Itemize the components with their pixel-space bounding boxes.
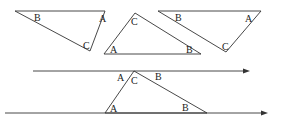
top-triangles: BACCABBAC (15, 11, 261, 55)
triangle-outline (15, 11, 105, 51)
top-triangle-3: BAC (158, 11, 261, 52)
angle-label-a: A (110, 44, 118, 55)
angle-label-b: B (186, 44, 193, 55)
angle-label-b: B (34, 12, 41, 23)
top-triangle-2: CAB (104, 13, 201, 55)
angle-label-c: C (222, 41, 229, 52)
angle-label-a: A (117, 72, 125, 83)
angle-label-b: B (155, 71, 162, 82)
angle-label-a: A (110, 103, 118, 114)
angle-label-b: B (175, 12, 182, 23)
angle-label-c: C (131, 16, 138, 27)
triangle-angle-sum-diagram: BACCABBAC ACBAB (0, 0, 283, 125)
parallel-line-1 (33, 69, 250, 74)
angle-label-a: A (99, 13, 107, 24)
angle-label-c: C (131, 75, 138, 86)
bottom-triangle: ACBAB (105, 71, 207, 114)
arrowhead-icon (243, 69, 250, 74)
bottom-triangle-1: ACBAB (105, 71, 207, 114)
angle-label-c: C (83, 40, 90, 51)
arrowhead-icon (261, 111, 268, 116)
top-triangle-1: BAC (15, 11, 107, 51)
angle-label-a: A (245, 13, 253, 24)
angle-label-b: B (182, 102, 189, 113)
